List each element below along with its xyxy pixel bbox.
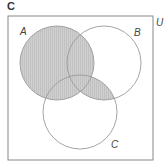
- set-b-label: B: [134, 27, 141, 38]
- universe-label: U: [156, 17, 164, 28]
- set-a-label: A: [19, 26, 27, 37]
- venn-diagram: A B C U: [0, 0, 167, 167]
- set-c-label: C: [111, 139, 119, 150]
